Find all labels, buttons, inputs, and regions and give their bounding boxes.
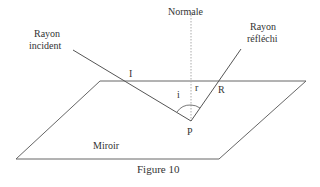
figure-caption: Figure 10 [137, 164, 179, 175]
angle-i-arc [177, 105, 191, 112]
point-p-label: P [187, 126, 193, 137]
angle-r-arc [191, 105, 200, 108]
point-r-label: R [218, 84, 225, 95]
incident-ray [73, 50, 191, 121]
mirror-plane [16, 81, 306, 159]
reflected-ray [191, 49, 241, 121]
reflected-ray-label-1: Rayon [250, 21, 276, 32]
mirror-label: Miroir [93, 140, 119, 151]
angle-i-label: i [177, 89, 180, 100]
incident-ray-label-1: Rayon [34, 28, 60, 39]
angle-r-label: r [195, 82, 198, 93]
incident-ray-label-2: incident [29, 40, 61, 51]
normal-label: Normale [168, 6, 203, 17]
point-i-label: I [129, 68, 132, 79]
reflected-ray-label-2: réfléchi [247, 33, 278, 44]
